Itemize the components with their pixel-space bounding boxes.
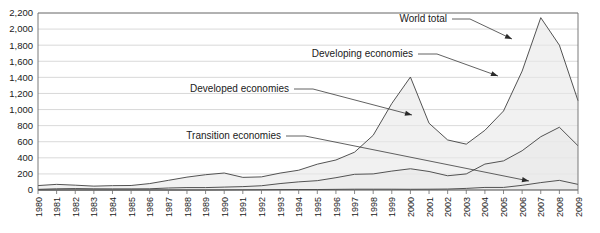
x-axis-tick-label: 2007	[536, 197, 546, 217]
x-axis-tick-label: 1995	[313, 197, 323, 217]
y-axis-tick-label: 600	[17, 136, 33, 147]
x-axis-tick-label: 1996	[332, 197, 342, 217]
annotation-label-developing-economies: Developing economies	[312, 48, 413, 59]
y-axis-tick-label: 1,400	[9, 72, 33, 83]
x-axis-tick-label: 1986	[145, 197, 155, 217]
x-axis-tick-label: 1983	[89, 197, 99, 217]
x-axis-tick-label: 2008	[555, 197, 565, 217]
x-axis-tick-label: 1982	[71, 197, 81, 217]
x-axis-tick-label: 1990	[220, 197, 230, 217]
x-axis-tick-label: 1999	[387, 197, 397, 217]
annotation-label-world-total: World total	[399, 13, 447, 24]
y-axis-tick-label: 1,600	[9, 56, 33, 67]
y-axis-tick-label: 1,800	[9, 40, 33, 51]
annotation-arrowhead	[505, 34, 514, 42]
annotation-leader-developing-economies	[418, 54, 498, 76]
x-axis-tick-label: 1988	[183, 197, 193, 217]
x-axis-tick-label: 1989	[201, 197, 211, 217]
x-axis-tick-label: 2009	[574, 197, 584, 217]
x-axis-tick-label: 1993	[276, 197, 286, 217]
x-axis-tick-label: 2002	[443, 197, 453, 217]
x-axis-tick-label: 1980	[34, 197, 44, 217]
x-axis-tick-label: 2005	[499, 197, 509, 217]
y-axis-tick-label: 800	[17, 120, 33, 131]
x-axis-tick-label: 1984	[108, 197, 118, 217]
y-axis-tick-label: 0	[28, 184, 33, 195]
x-axis-tick-label: 1998	[369, 197, 379, 217]
y-axis-tick-label: 2,200	[9, 7, 33, 18]
x-axis-tick-label: 2001	[425, 197, 435, 217]
x-axis-tick-label: 1992	[257, 197, 267, 217]
annotation-label-developed-economies: Developed economies	[190, 83, 289, 94]
x-axis-tick-label: 2004	[480, 197, 490, 217]
chart-canvas: 02004006008001,0001,2001,4001,6001,8002,…	[0, 0, 600, 233]
x-axis-tick-label: 2006	[518, 197, 528, 217]
x-axis-tick-label: 1985	[127, 197, 137, 217]
stacked-area-chart: 02004006008001,0001,2001,4001,6001,8002,…	[0, 0, 600, 233]
x-axis-tick-label: 1981	[52, 197, 62, 217]
x-axis-tick-label: 1997	[350, 197, 360, 217]
y-axis-tick-label: 400	[17, 152, 33, 163]
annotation-label-transition-economies: Transition economies	[186, 130, 281, 141]
x-axis-tick-label: 2003	[462, 197, 472, 217]
x-axis-tick-label: 2000	[406, 197, 416, 217]
x-axis-tick-label: 1991	[238, 197, 248, 217]
y-axis-tick-label: 1,000	[9, 104, 33, 115]
y-axis-tick-label: 200	[17, 168, 33, 179]
y-axis-tick-label: 1,200	[9, 88, 33, 99]
x-axis-tick-label: 1994	[294, 197, 304, 217]
x-axis-tick-label: 1987	[164, 197, 174, 217]
y-axis-tick-label: 2,000	[9, 23, 33, 34]
